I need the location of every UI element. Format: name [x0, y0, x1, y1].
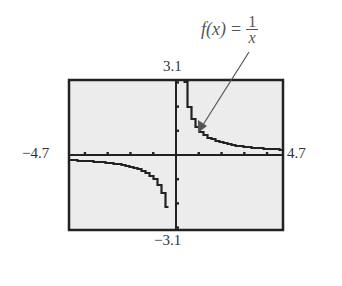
x-tick: [152, 152, 154, 155]
y-tick: [176, 178, 179, 180]
formula-denominator: x: [249, 30, 256, 45]
y-tick: [176, 105, 179, 107]
formula-equals: =: [231, 19, 241, 40]
ymin-label: −3.1: [154, 232, 181, 249]
x-tick: [107, 152, 109, 155]
graphing-calculator-figure: 3.1 −3.1 −4.7 4.7 f(x)= 1 x: [0, 0, 342, 286]
x-tick: [243, 152, 245, 155]
x-tick: [220, 152, 222, 155]
ymax-label: 3.1: [163, 58, 182, 75]
y-tick: [176, 226, 179, 228]
y-tick: [176, 81, 179, 83]
xmax-label: 4.7: [287, 145, 306, 162]
x-tick: [266, 152, 268, 155]
function-annotation: f(x)= 1 x: [201, 14, 258, 45]
y-tick: [176, 202, 179, 204]
formula-numerator: 1: [246, 14, 258, 30]
x-tick: [129, 152, 131, 155]
formula-lhs: f(x): [201, 19, 226, 40]
x-tick: [198, 152, 200, 155]
xmin-label: −4.7: [22, 145, 49, 162]
formula-fraction: 1 x: [246, 14, 258, 45]
y-tick: [176, 130, 179, 132]
x-tick: [84, 152, 86, 155]
